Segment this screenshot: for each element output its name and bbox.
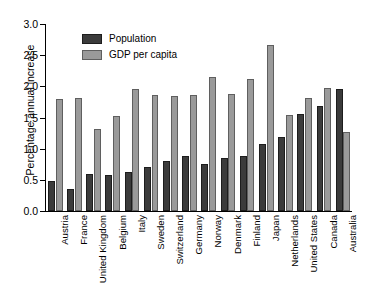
x-axis-label-austria: Austria xyxy=(59,215,70,245)
bar-group xyxy=(200,25,219,211)
bar-gdp-per-capita xyxy=(305,98,312,211)
bar-gdp-per-capita xyxy=(286,115,293,211)
bar-group xyxy=(276,25,295,211)
y-tick-label: 0.0 xyxy=(23,205,38,217)
bar-gdp-per-capita xyxy=(343,132,350,211)
bar-population xyxy=(125,172,132,211)
x-axis-label-germany: Germany xyxy=(193,215,204,254)
bar-population xyxy=(201,164,208,211)
bar-gdp-per-capita xyxy=(56,99,63,211)
legend-label-population: Population xyxy=(109,33,156,44)
x-axis-label-france: France xyxy=(78,215,89,245)
x-axis-label-finland: Finland xyxy=(251,215,262,246)
bar-group xyxy=(46,25,65,211)
bar-gdp-per-capita xyxy=(171,96,178,211)
x-axis-label-norway: Norway xyxy=(212,215,223,248)
bar-group xyxy=(315,25,334,211)
bar-group xyxy=(238,25,257,211)
bar-population xyxy=(105,175,112,211)
bar-group xyxy=(219,25,238,211)
legend-item-gdp-per-capita: GDP per capita xyxy=(82,48,177,61)
bar-population xyxy=(221,158,228,211)
legend-swatch-population-icon xyxy=(82,34,102,44)
bar-population xyxy=(240,156,247,211)
y-tick-label: 2.5 xyxy=(23,49,38,61)
x-axis-label-australia: Australia xyxy=(347,215,358,252)
bar-gdp-per-capita xyxy=(94,129,101,211)
bar-population xyxy=(317,106,324,211)
y-tick-label: 1.0 xyxy=(23,143,38,155)
y-tick-label: 2.0 xyxy=(23,80,38,92)
y-tick-label: 1.5 xyxy=(23,112,38,124)
x-axis-label-switzerland: Switzerland xyxy=(174,215,185,265)
x-axis-label-netherlands: Netherlands xyxy=(289,215,300,267)
bar-gdp-per-capita xyxy=(113,116,120,211)
x-axis-label-denmark: Denmark xyxy=(232,215,243,254)
y-tick-label: 3.0 xyxy=(23,18,38,30)
x-axis-label-canada: Canada xyxy=(328,215,339,249)
bar-gdp-per-capita xyxy=(228,94,235,211)
bar-population xyxy=(182,156,189,211)
y-tick-mark xyxy=(40,211,46,212)
bar-population xyxy=(144,167,151,211)
y-tick-label: 0.5 xyxy=(23,174,38,186)
bar-population xyxy=(163,161,170,211)
bar-group xyxy=(334,25,353,211)
bar-gdp-per-capita xyxy=(209,77,216,211)
x-axis-label-united-kingdom: United Kingdom xyxy=(97,215,108,283)
bar-gdp-per-capita xyxy=(267,45,274,211)
bar-group xyxy=(295,25,314,211)
bar-gdp-per-capita xyxy=(152,95,159,211)
bar-group xyxy=(257,25,276,211)
bar-population xyxy=(259,144,266,211)
bar-gdp-per-capita xyxy=(75,98,82,211)
percentage-annual-increase-bar-chart: Percentage annual increase 0.00.51.01.52… xyxy=(0,0,367,304)
legend-label-gdp-per-capita: GDP per capita xyxy=(109,49,177,60)
bar-group xyxy=(180,25,199,211)
bar-population xyxy=(67,189,74,211)
bar-gdp-per-capita xyxy=(132,89,139,211)
bar-population xyxy=(297,114,304,211)
bar-gdp-per-capita xyxy=(324,88,331,211)
x-axis-label-sweden: Sweden xyxy=(155,215,166,250)
x-axis-label-japan: Japan xyxy=(270,215,281,241)
chart-legend: Population GDP per capita xyxy=(82,32,177,64)
bar-gdp-per-capita xyxy=(190,95,197,211)
bar-population xyxy=(48,181,55,211)
bar-population xyxy=(86,174,93,211)
x-axis-label-united-states: United States xyxy=(308,215,319,273)
bar-population xyxy=(278,137,285,211)
legend-swatch-gdp-per-capita-icon xyxy=(82,50,102,60)
x-axis-label-belgium: Belgium xyxy=(117,215,128,250)
x-axis-label-italy: Italy xyxy=(136,215,147,233)
bar-gdp-per-capita xyxy=(247,79,254,211)
bar-population xyxy=(336,89,343,211)
legend-item-population: Population xyxy=(82,32,177,45)
